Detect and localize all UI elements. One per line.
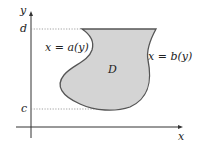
x-axis-arrow-icon — [178, 125, 183, 129]
right-boundary-label: x = b(y) — [148, 50, 192, 63]
left-boundary-label: x = a(y) — [45, 41, 89, 54]
region-label: D — [107, 63, 117, 76]
x-axis-label: x — [178, 130, 185, 143]
y-axis-label: y — [19, 4, 27, 17]
tick-label-c: c — [21, 102, 27, 115]
tick-label-d: d — [20, 22, 27, 35]
type-ii-region-diagram: y x d c D x = a(y) x = b(y) — [0, 0, 197, 145]
y-axis-arrow-icon — [29, 11, 33, 16]
